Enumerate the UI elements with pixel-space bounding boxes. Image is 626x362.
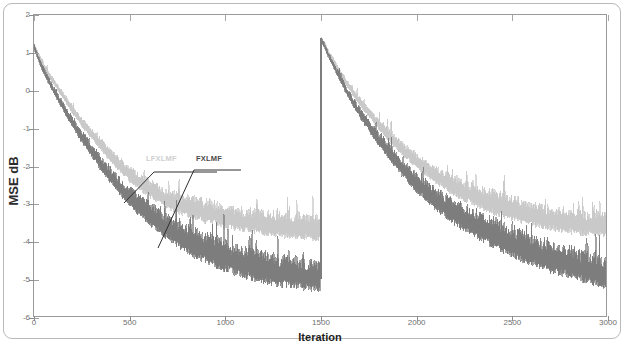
x-tick-inner	[417, 15, 418, 21]
x-axis-title: Iteration	[33, 331, 607, 343]
y-tick-inner	[34, 242, 39, 243]
x-tick-inner	[34, 15, 35, 21]
y-tick-inner	[34, 167, 39, 168]
y-tick-inner	[34, 280, 39, 281]
series-lfxlmf-segment	[322, 37, 606, 238]
x-tick-label: 2500	[503, 319, 521, 327]
lfxlmf-callout-label: LFXLMF	[146, 155, 177, 163]
plot-frame: 210-1-2-3-4-5-6050010001500200025003000	[33, 14, 607, 317]
y-tick-label: 0	[26, 87, 30, 95]
fxlmf-callout-label: FXLMF	[196, 155, 222, 163]
x-tick-inner	[225, 15, 226, 21]
x-tick-label: 2000	[408, 319, 426, 327]
x-tick-label: 500	[123, 319, 136, 327]
x-tick-label: 3000	[599, 319, 617, 327]
series-canvas	[34, 15, 606, 316]
y-tick-label: 1	[26, 49, 30, 57]
plot-area	[34, 15, 606, 316]
figure-page: MSE dB Iteration 210-1-2-3-4-5-605001000…	[0, 0, 626, 362]
y-tick-inner	[34, 53, 39, 54]
series-fxlmf-segment	[322, 38, 606, 289]
x-tick-inner	[512, 15, 513, 21]
y-tick-label: -4	[23, 238, 30, 246]
y-tick-inner	[34, 129, 39, 130]
y-axis-title: MSE dB	[6, 101, 21, 261]
y-tick-inner	[34, 204, 39, 205]
y-tick-label: -3	[23, 200, 30, 208]
y-tick-inner	[34, 91, 39, 92]
y-tick-label: -6	[23, 314, 30, 322]
x-tick-inner	[321, 15, 322, 21]
x-tick-label: 0	[32, 319, 36, 327]
x-tick-label: 1500	[312, 319, 330, 327]
y-tick-label: 2	[26, 11, 30, 19]
x-tick-inner	[608, 15, 609, 21]
series-lfxlmf-segment	[34, 44, 320, 241]
x-tick-label: 1000	[216, 319, 234, 327]
y-tick-label: -1	[23, 125, 30, 133]
series-fxlmf-segment	[34, 44, 320, 292]
y-tick-label: -5	[23, 276, 30, 284]
y-tick-label: -2	[23, 163, 30, 171]
x-tick-inner	[130, 15, 131, 21]
